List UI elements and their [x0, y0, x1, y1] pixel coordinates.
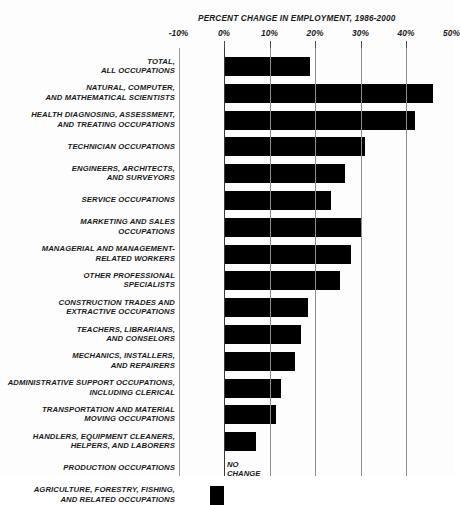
x-axis-tick-mark — [406, 41, 407, 48]
bar — [224, 111, 415, 130]
category-label: ENGINEERS, ARCHITECTS, AND SURVEYORS — [72, 164, 175, 183]
category-label: TRANSPORTATION AND MATERIAL MOVING OCCUP… — [42, 405, 175, 424]
bar — [224, 57, 310, 76]
bar — [224, 271, 340, 290]
category-label: CONSTRUCTION TRADES AND EXTRACTIVE OCCUP… — [59, 298, 175, 317]
x-axis-tick-label: 0% — [218, 28, 230, 38]
category-label: OTHER PROFESSIONAL SPECIALISTS — [84, 271, 176, 290]
plot-area: TOTAL, ALL OCCUPATIONSNATURAL, COMPUTER,… — [0, 48, 454, 476]
category-label: TEACHERS, LIBRARIANS, AND CONSELORS — [77, 325, 175, 344]
bar — [224, 405, 276, 424]
bar-row: OTHER PROFESSIONAL SPECIALISTS — [0, 271, 454, 290]
x-axis-tick-label: 10% — [261, 28, 278, 38]
bar — [224, 379, 281, 398]
category-label: MARKETING AND SALES OCCUPATIONS — [80, 217, 175, 236]
bar-row: NATURAL, COMPUTER, AND MATHEMATICAL SCIE… — [0, 84, 454, 103]
x-axis-tick-mark — [315, 41, 316, 48]
category-label: MANAGERIAL AND MANAGEMENT- RELATED WORKE… — [42, 244, 175, 263]
bar — [224, 218, 361, 237]
x-axis-tick-mark — [224, 41, 225, 48]
category-label: MECHANICS, INSTALLERS, AND REPAIRERS — [72, 351, 175, 370]
bar — [210, 486, 224, 505]
gridline-30 — [361, 48, 362, 476]
bar-row: HEALTH DIAGNOSING, ASSESSMENT, AND TREAT… — [0, 111, 454, 130]
x-axis-tick-labels: -10%0%10%20%30%40%50% — [0, 28, 454, 40]
category-label: AGRICULTURE, FORESTRY, FISHING, AND RELA… — [34, 485, 175, 504]
bar — [224, 432, 256, 451]
bar-row: MARKETING AND SALES OCCUPATIONS — [0, 218, 454, 237]
bar — [224, 164, 345, 183]
x-axis-tick-label: 40% — [398, 28, 415, 38]
zero-gridline — [224, 48, 225, 476]
x-axis-tick-label: 20% — [307, 28, 324, 38]
bar-row: TEACHERS, LIBRARIANS, AND CONSELORS — [0, 325, 454, 344]
category-label: PRODUCTION OCCUPATIONS — [63, 463, 175, 472]
chart-title: PERCENT CHANGE IN EMPLOYMENT, 1986-2000 — [198, 14, 396, 23]
x-axis-tick-label: 30% — [352, 28, 369, 38]
x-axis-tick-mark — [361, 41, 362, 48]
category-label: TOTAL, ALL OCCUPATIONS — [101, 57, 175, 76]
bar-rows: TOTAL, ALL OCCUPATIONSNATURAL, COMPUTER,… — [0, 48, 454, 476]
category-label: HEALTH DIAGNOSING, ASSESSMENT, AND TREAT… — [31, 110, 175, 129]
bar-row: TRANSPORTATION AND MATERIAL MOVING OCCUP… — [0, 405, 454, 424]
bar-row: TOTAL, ALL OCCUPATIONS — [0, 57, 454, 76]
gridline-10 — [270, 48, 271, 476]
bar — [224, 84, 433, 103]
bar-row: AGRICULTURE, FORESTRY, FISHING, AND RELA… — [0, 486, 454, 505]
axis-left-border — [179, 48, 180, 476]
bar — [224, 137, 365, 156]
bar-row: ADMINISTRATIVE SUPPORT OCCUPATIONS, INCL… — [0, 379, 454, 398]
gridline-20 — [315, 48, 316, 476]
x-axis-tick-marks — [0, 41, 454, 48]
bar — [224, 352, 295, 371]
bar-row: MECHANICS, INSTALLERS, AND REPAIRERS — [0, 352, 454, 371]
x-axis-tick-mark — [270, 41, 271, 48]
category-label: ADMINISTRATIVE SUPPORT OCCUPATIONS, INCL… — [8, 378, 175, 397]
bar-row: HANDLERS, EQUIPMENT CLEANERS, HELPERS, A… — [0, 432, 454, 451]
no-change-annotation: NO CHANGE — [227, 460, 260, 479]
x-axis-tick-label: 50% — [443, 28, 460, 38]
category-label: NATURAL, COMPUTER, AND MATHEMATICAL SCIE… — [45, 83, 175, 102]
gridline-40 — [406, 48, 407, 476]
category-label: TECHNICIAN OCCUPATIONS — [68, 142, 175, 151]
bar-row: SERVICE OCCUPATIONS — [0, 191, 454, 210]
bar-row: ENGINEERS, ARCHITECTS, AND SURVEYORS — [0, 164, 454, 183]
bar-row: CONSTRUCTION TRADES AND EXTRACTIVE OCCUP… — [0, 298, 454, 317]
bar-row: MANAGERIAL AND MANAGEMENT- RELATED WORKE… — [0, 245, 454, 264]
category-label: SERVICE OCCUPATIONS — [82, 195, 175, 204]
x-axis-tick-label: -10% — [169, 28, 189, 38]
bar-row: TECHNICIAN OCCUPATIONS — [0, 137, 454, 156]
bar — [224, 325, 301, 344]
category-label: HANDLERS, EQUIPMENT CLEANERS, HELPERS, A… — [33, 432, 175, 451]
bar — [224, 298, 308, 317]
bar — [224, 245, 351, 264]
